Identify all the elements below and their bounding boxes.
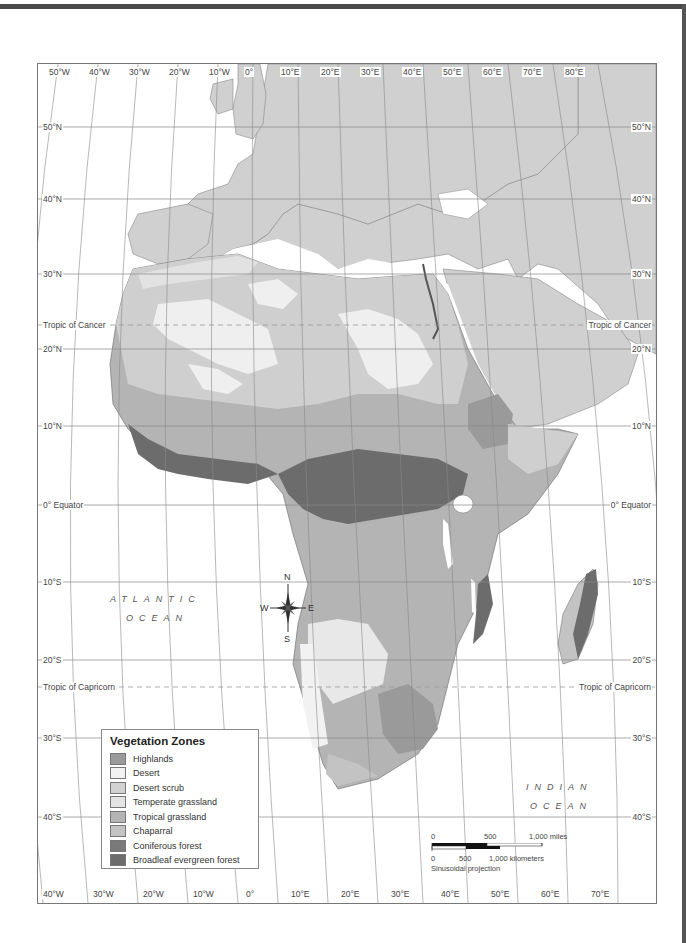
legend-swatch (110, 753, 126, 765)
lat-label-left: 40°N (42, 194, 63, 204)
lat-label-left: 0° Equator (42, 500, 84, 510)
lat-label-right: 50°N (631, 122, 652, 132)
legend-label: Tropical grassland (133, 812, 206, 822)
lon-label-top: 30°E (360, 67, 381, 77)
scale-miles-500: 500 (484, 832, 497, 841)
scale-miles-1000: 1,000 miles (529, 832, 567, 841)
lon-label-bottom: 20°W (142, 889, 165, 899)
legend-swatch (110, 796, 126, 808)
legend-swatch (110, 782, 126, 794)
lat-label-left: 20°S (42, 655, 63, 665)
scale-miles-0: 0 (431, 832, 435, 841)
lon-label-top: 20°E (320, 67, 341, 77)
ocean-label-indian: INDIAN (526, 782, 593, 792)
lat-label-right: 30°S (631, 733, 652, 743)
right-border-bar (682, 4, 686, 943)
lon-label-top: 30°W (128, 67, 151, 77)
lon-label-top: 10°E (280, 67, 301, 77)
legend: Vegetation Zones Highlands Desert Desert… (101, 729, 259, 869)
map-frame: 50°W 40°W 30°W 20°W 10°W 0° 10°E 20°E 30… (37, 63, 657, 904)
lon-label-top: 20°W (168, 67, 191, 77)
lon-label-bottom: 20°E (340, 889, 361, 899)
lat-label-left: 40°S (42, 812, 63, 822)
lon-label-top: 50°W (48, 67, 71, 77)
compass-s: S (284, 634, 290, 644)
legend-item-highlands: Highlands (110, 752, 173, 765)
lat-label-left: 30°S (42, 733, 63, 743)
ocean-label-atlantic: OCEAN (126, 613, 188, 623)
legend-label: Temperate grassland (133, 797, 217, 807)
lon-label-top: 50°E (442, 67, 463, 77)
legend-label: Desert scrub (133, 783, 184, 793)
lon-label-bottom: 40°W (42, 889, 65, 899)
legend-item-temperate-grassland: Temperate grassland (110, 796, 217, 809)
lon-label-bottom: 10°W (192, 889, 215, 899)
lat-label-right: 40°S (631, 812, 652, 822)
lat-label-right: 10°N (631, 421, 652, 431)
lat-label-left: Tropic of Capricorn (42, 682, 116, 692)
compass-e: E (308, 603, 314, 613)
lon-label-bottom: 10°E (290, 889, 311, 899)
legend-item-broadleaf-evergreen-forest: Broadleaf evergreen forest (110, 854, 240, 867)
legend-swatch (110, 767, 126, 779)
lat-label-left: 10°N (42, 421, 63, 431)
lon-label-bottom: 30°W (92, 889, 115, 899)
lon-label-top: 40°W (88, 67, 111, 77)
legend-swatch (110, 840, 126, 852)
legend-label: Coniferous forest (133, 841, 202, 851)
lon-label-bottom: 60°E (540, 889, 561, 899)
lat-label-left: 30°N (42, 269, 63, 279)
lon-label-top: 0° (244, 67, 254, 77)
lat-label-right: 10°S (631, 577, 652, 587)
legend-label: Chaparral (133, 826, 173, 836)
ocean-label-indian: OCEAN (530, 801, 592, 811)
legend-item-tropical-grassland: Tropical grassland (110, 810, 206, 823)
lon-label-bottom: 30°E (390, 889, 411, 899)
scale-km-0: 0 (431, 854, 435, 863)
scale-km-500: 500 (459, 854, 472, 863)
lat-label-left: 20°N (42, 344, 63, 354)
lon-label-top: 80°E (564, 67, 585, 77)
projection-note: Sinusoidal projection (431, 864, 500, 873)
compass-rose: N S E W (258, 572, 318, 652)
lon-label-bottom: 40°E (440, 889, 461, 899)
legend-swatch (110, 854, 126, 866)
legend-item-desert-scrub: Desert scrub (110, 781, 184, 794)
scale-bar: 0 500 1,000 miles 0 500 1,000 kilometers… (431, 832, 581, 882)
lon-label-bottom: 50°E (490, 889, 511, 899)
lon-label-top: 10°W (208, 67, 231, 77)
lat-label-left: Tropic of Cancer (42, 320, 107, 330)
legend-label: Highlands (133, 754, 173, 764)
legend-swatch (110, 811, 126, 823)
scale-bar-graphic (431, 843, 546, 853)
lat-label-right: 0° Equator (610, 500, 652, 510)
lat-label-right: Tropic of Cancer (587, 320, 652, 330)
lat-label-right: 40°N (631, 194, 652, 204)
legend-title: Vegetation Zones (110, 735, 205, 747)
compass-w: W (260, 603, 269, 613)
legend-label: Desert (133, 768, 160, 778)
scale-km-1000: 1,000 kilometers (489, 854, 544, 863)
lon-label-bottom: 70°E (590, 889, 611, 899)
lat-label-right: Tropic of Capricorn (578, 682, 652, 692)
legend-item-coniferous-forest: Coniferous forest (110, 839, 202, 852)
lon-label-top: 40°E (402, 67, 423, 77)
lat-label-left: 50°N (42, 122, 63, 132)
lon-label-top: 60°E (482, 67, 503, 77)
lat-label-right: 20°S (631, 655, 652, 665)
compass-n: N (284, 572, 291, 582)
legend-item-chaparral: Chaparral (110, 825, 173, 838)
lon-label-bottom: 0° (245, 889, 255, 899)
lon-label-top: 70°E (522, 67, 543, 77)
legend-item-desert: Desert (110, 767, 160, 780)
ocean-label-atlantic: ATLANTIC (110, 594, 201, 604)
legend-swatch (110, 825, 126, 837)
lat-label-right: 30°N (631, 269, 652, 279)
top-border-bar (0, 4, 686, 9)
legend-label: Broadleaf evergreen forest (133, 855, 240, 865)
lat-label-right: 20°N (631, 344, 652, 354)
lat-label-left: 10°S (42, 577, 63, 587)
